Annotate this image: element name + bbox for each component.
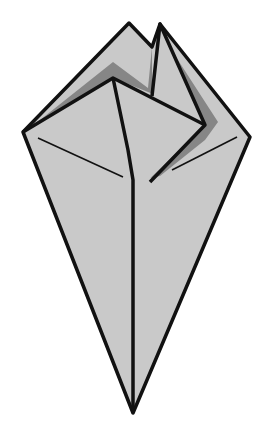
origami-diagram	[0, 0, 267, 440]
